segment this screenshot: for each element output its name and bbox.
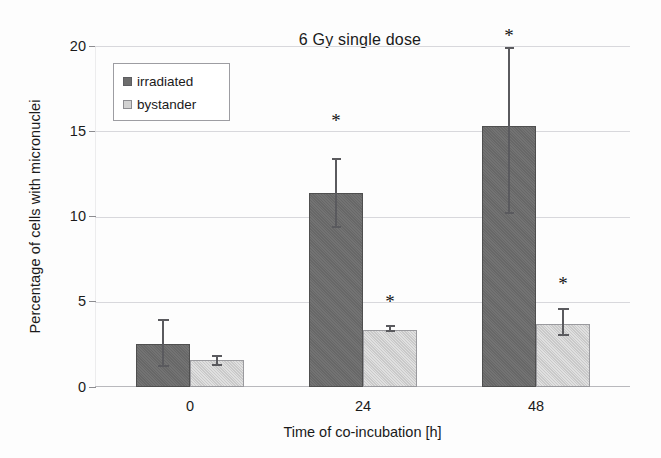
errorbar-bystander-0h [190,355,244,366]
legend-label-irradiated: irradiated [137,75,193,89]
errorbar-irradiated-0h [136,319,190,367]
errorbar-cap-bottom [332,226,341,228]
errorbar-cap-top [332,158,341,160]
y-tick-15: 15 [46,124,86,139]
errorbar-stem [508,47,510,214]
significance-asterisk-irradiated-24h: * [331,111,341,130]
chart-legend: irradiated bystander [113,63,230,121]
legend-item-irradiated: irradiated [123,71,221,92]
legend-swatch-icon-bystander [123,100,132,109]
chart-figure: 6 Gy single dose Percentage of cells wit… [0,0,661,458]
x-tick-24: 24 [355,398,371,414]
x-axis-label: Time of co-incubation [h] [95,424,630,440]
errorbar-cap-bottom [505,212,514,214]
y-tick-10: 10 [46,209,86,224]
significance-asterisk-bystander-24h: * [385,292,395,311]
significance-asterisk-bystander-48h: * [558,274,568,293]
errorbar-cap-bottom [158,365,169,367]
x-tick-0: 0 [186,398,194,414]
errorbar-irradiated-48h [482,47,536,214]
gridline-15 [95,131,630,132]
errorbar-cap-bottom [386,330,395,332]
legend-item-bystander: bystander [123,94,221,115]
bar-bystander-24h [363,330,417,387]
legend-swatch-icon-irradiated [123,77,132,86]
errorbar-cap-bottom [558,334,569,336]
y-axis-tick-labels: 20 15 10 5 0 [46,0,86,458]
errorbar-irradiated-24h [309,158,363,228]
y-axis-label: Percentage of cells with micronuclei [22,46,48,387]
errorbar-bystander-48h [536,308,590,336]
errorbar-cap-top [505,47,514,49]
errorbar-cap-bottom [212,364,222,366]
y-tick-20: 20 [46,39,86,54]
legend-label-bystander: bystander [137,98,196,112]
y-tick-0: 0 [46,380,86,395]
errorbar-stem [335,158,337,228]
y-axis-tick-mark-0 [89,387,96,388]
errorbar-cap-top [386,325,395,327]
errorbar-stem [562,308,564,336]
errorbar-cap-top [558,308,569,310]
y-tick-5: 5 [46,294,86,309]
errorbar-stem [162,319,164,367]
significance-asterisk-irradiated-48h: * [504,26,514,45]
errorbar-cap-top [158,319,169,321]
x-tick-48: 48 [528,398,544,414]
errorbar-bystander-24h [363,325,417,332]
gridline-20 [95,46,630,47]
errorbar-cap-top [212,355,222,357]
